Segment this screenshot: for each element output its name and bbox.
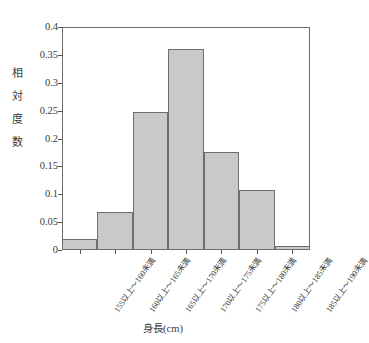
x-axis-title: 身長(cm): [0, 320, 326, 335]
